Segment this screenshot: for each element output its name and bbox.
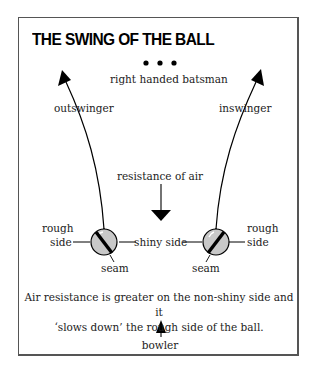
batsman-label: right handed batsman [110, 73, 210, 85]
caption-line-1: Air resistance is greater on the non-shi… [20, 290, 298, 320]
inswinger-label: inswinger [219, 102, 272, 114]
stumps-dots-icon [143, 60, 176, 65]
ball-left-icon [73, 228, 136, 262]
outswinger-path-arrow [58, 70, 104, 229]
bowler-label: bowler [130, 339, 190, 351]
shiny-side-label: shiny side [134, 236, 184, 248]
rough-side-left-label-2: side [50, 236, 72, 248]
ball-right-icon [183, 228, 245, 262]
inswinger-path-arrow [216, 69, 264, 229]
air-resistance-arrow [151, 184, 171, 221]
outswinger-label: outswinger [54, 102, 114, 114]
rough-side-right-label-1: rough [247, 222, 279, 234]
rough-side-right-label-2: side [247, 236, 269, 248]
seam-right-label: seam [192, 262, 220, 274]
diagram-title: THE SWING OF THE BALL [32, 30, 214, 49]
resistance-label: resistance of air [110, 170, 210, 182]
caption-line-2: ‘slows down’ the rough side of the ball. [20, 320, 298, 335]
caption: Air resistance is greater on the non-shi… [20, 290, 298, 335]
seam-left-label: seam [101, 262, 129, 274]
rough-side-left-label-1: rough [42, 222, 74, 234]
